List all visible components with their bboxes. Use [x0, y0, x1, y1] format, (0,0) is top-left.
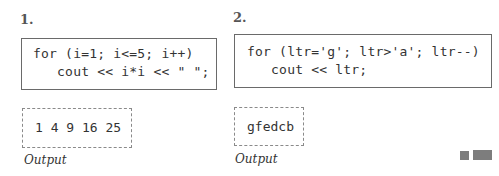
example-1-output-label: Output — [24, 153, 67, 167]
decorative-wide-square-icon — [473, 150, 492, 160]
example-2-number: 2. — [233, 10, 247, 25]
decorative-small-square-icon — [460, 151, 469, 160]
example-1-output-text: 1 4 9 16 25 — [35, 120, 121, 135]
example-1-code-line-1: for (i=1; i<=5; i++) — [33, 46, 194, 61]
example-2-output-text: gfedcb — [247, 119, 294, 134]
example-1-number: 1. — [20, 12, 34, 27]
example-1-code-line-2: cout << i*i << " "; — [33, 64, 210, 79]
example-1-code-box: for (i=1; i<=5; i++) cout << i*i << " "; — [21, 38, 217, 90]
example-2-output-label: Output — [235, 152, 278, 166]
example-1-output-box: 1 4 9 16 25 — [22, 108, 132, 148]
example-2-code-line-2: cout << ltr; — [247, 62, 367, 77]
example-2-code-box: for (ltr='g'; ltr>'a'; ltr--) cout << lt… — [234, 34, 492, 88]
example-2-code-line-1: for (ltr='g'; ltr>'a'; ltr--) — [247, 44, 480, 59]
example-2-output-box: gfedcb — [234, 107, 304, 146]
